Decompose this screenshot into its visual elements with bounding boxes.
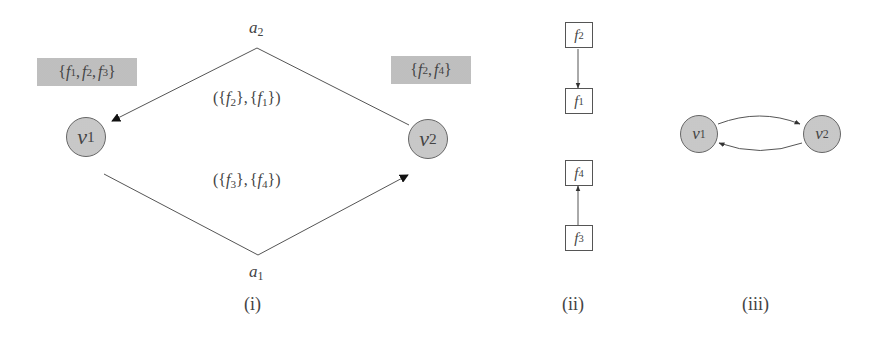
arc-a1-annotation: ({f3},{f4}) — [213, 171, 281, 190]
node-v1-iii: v1 — [680, 115, 718, 153]
diagram-edges — [0, 0, 878, 340]
node-v2: v2 — [408, 119, 448, 159]
node-set-v1: { f1 , f2 , f3 } — [37, 58, 137, 86]
arc-a2-annotation: ({f2},{f1}) — [213, 89, 281, 108]
node-set-v2: { f2 , f4 } — [391, 56, 471, 84]
node-v2-iii: v2 — [803, 115, 841, 153]
box-f2: f2 — [565, 22, 593, 48]
arc-a2 — [112, 48, 409, 125]
box-f1: f1 — [565, 88, 593, 114]
caption-panel-iii: (iii) — [742, 294, 769, 315]
edge-v2-v1 — [719, 143, 802, 151]
box-f4: f4 — [565, 160, 593, 186]
caption-panel-i: (i) — [244, 294, 261, 315]
arc-label-a1: a1 — [249, 262, 263, 284]
node-v1: v1 — [66, 117, 106, 157]
caption-panel-ii: (ii) — [562, 294, 584, 315]
arc-label-a2: a2 — [249, 18, 263, 40]
box-f3: f3 — [565, 225, 593, 251]
edge-v1-v2 — [718, 116, 800, 124]
